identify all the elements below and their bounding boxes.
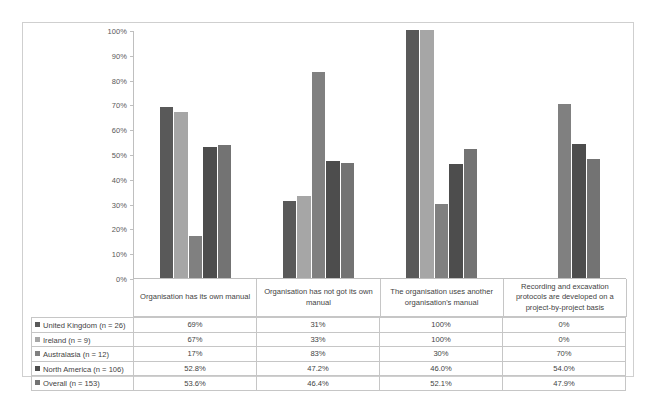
table-cell-value: 46.0% [380, 361, 503, 376]
bar-group [380, 31, 503, 278]
table-cell-value: 47.2% [257, 361, 380, 376]
legend-cell: Ireland (n = 9) [32, 332, 134, 347]
legend-label: North America (n = 106) [43, 364, 124, 373]
bar [449, 164, 463, 278]
bar [189, 236, 203, 278]
legend-label: Australasia (n = 12) [43, 350, 109, 359]
table-cell-value: 30% [380, 347, 503, 362]
table-cell-value: 54.0% [503, 361, 626, 376]
table-cell-value: 52.8% [134, 361, 257, 376]
table-row: North America (n = 106)52.8%47.2%46.0%54… [32, 361, 626, 376]
table-row: Ireland (n = 9)67%33%100%0% [32, 332, 626, 347]
y-axis-tick-label: 80% [112, 76, 127, 85]
table-cell-value: 31% [257, 318, 380, 333]
bar [464, 149, 478, 278]
y-axis-tick-label: 40% [112, 175, 127, 184]
table-cell-value: 0% [503, 318, 626, 333]
plot-area: 0%10%20%30%40%50%60%70%80%90%100% [133, 31, 626, 279]
table-cell-value: 100% [380, 332, 503, 347]
legend-cell: North America (n = 106) [32, 361, 134, 376]
bar [420, 30, 434, 278]
bar-group [134, 31, 257, 278]
bar [218, 145, 232, 278]
y-axis-tick-label: 20% [112, 225, 127, 234]
bar-group [257, 31, 380, 278]
table-cell-value: 69% [134, 318, 257, 333]
legend-swatch-icon [35, 366, 40, 371]
category-label: Organisation has not got its own manual [257, 279, 380, 317]
table-cell-value: 33% [257, 332, 380, 347]
y-axis-tick-label: 0% [116, 275, 127, 284]
table-cell-value: 17% [134, 347, 257, 362]
bar [174, 112, 188, 278]
bar [312, 72, 326, 278]
data-table: United Kingdom (n = 26)69%31%100%0%Irela… [31, 317, 626, 391]
y-axis-tick-label: 30% [112, 200, 127, 209]
legend-swatch-icon [35, 337, 40, 342]
table-row: United Kingdom (n = 26)69%31%100%0% [32, 318, 626, 333]
bar [572, 144, 586, 278]
bar [341, 163, 355, 278]
category-label: Organisation has its own manual [134, 279, 257, 317]
table-cell-value: 83% [257, 347, 380, 362]
category-label: The organisation uses another organisati… [381, 279, 504, 317]
y-axis-tick-label: 60% [112, 126, 127, 135]
y-axis-tick-label: 50% [112, 151, 127, 160]
table-cell-value: 100% [380, 318, 503, 333]
bar-groups [134, 31, 626, 278]
legend-cell: Australasia (n = 12) [32, 347, 134, 362]
table-cell-value: 67% [134, 332, 257, 347]
bar [587, 159, 601, 278]
bar-group [503, 31, 626, 278]
table-cell-value: 46.4% [257, 376, 380, 391]
y-axis-tick-label: 10% [112, 250, 127, 259]
bar [160, 107, 174, 278]
legend-swatch-icon [35, 322, 40, 327]
table-row: Australasia (n = 12)17%83%30%70% [32, 347, 626, 362]
legend-cell: Overall (n = 153) [32, 376, 134, 391]
bar [283, 201, 297, 278]
bar [435, 204, 449, 278]
bar [406, 30, 420, 278]
table-cell-value: 70% [503, 347, 626, 362]
y-axis-tick-label: 70% [112, 101, 127, 110]
legend-label: Overall (n = 153) [43, 379, 100, 388]
table-cell-value: 53.6% [134, 376, 257, 391]
legend-swatch-icon [35, 351, 40, 356]
legend-label: Ireland (n = 9) [43, 335, 91, 344]
y-axis-tick-label: 100% [107, 27, 127, 36]
bar [203, 147, 217, 278]
legend-swatch-icon [35, 380, 40, 385]
chart-frame: 0%10%20%30%40%50%60%70%80%90%100% Organi… [22, 22, 634, 377]
table-row: Overall (n = 153)53.6%46.4%52.1%47.9% [32, 376, 626, 391]
legend-label: United Kingdom (n = 26) [43, 321, 126, 330]
y-axis-tick-label: 90% [112, 51, 127, 60]
table-cell-value: 47.9% [503, 376, 626, 391]
legend-cell: United Kingdom (n = 26) [32, 318, 134, 333]
table-cell-value: 0% [503, 332, 626, 347]
category-label: Recording and excavation protocols are d… [504, 279, 627, 317]
bar [558, 104, 572, 278]
category-header-row: Organisation has its own manualOrganisat… [133, 279, 627, 317]
table-cell-value: 52.1% [380, 376, 503, 391]
bar [326, 161, 340, 278]
bar [297, 196, 311, 278]
